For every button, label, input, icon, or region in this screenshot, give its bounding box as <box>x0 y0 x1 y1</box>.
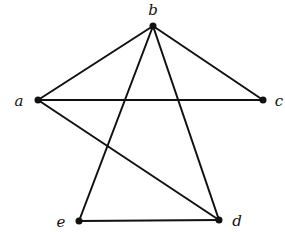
edge-e-d <box>79 220 219 221</box>
edge-b-d <box>153 26 219 220</box>
edge-a-b <box>38 26 153 100</box>
vertex-b <box>150 23 157 30</box>
vertex-d <box>216 217 223 224</box>
vertices <box>35 23 267 225</box>
edge-b-c <box>153 26 263 100</box>
vertex-label-e: e <box>57 213 66 231</box>
edges <box>38 26 263 221</box>
vertex-c <box>260 97 267 104</box>
graph-diagram: a b c d e <box>0 0 285 232</box>
vertex-label-d: d <box>232 212 242 230</box>
vertex-label-c: c <box>275 92 284 110</box>
vertex-label-a: a <box>15 92 24 110</box>
vertex-e <box>76 218 83 225</box>
vertex-label-b: b <box>148 1 158 19</box>
vertex-a <box>35 97 42 104</box>
edge-a-d <box>38 100 219 220</box>
edge-b-e <box>79 26 153 221</box>
